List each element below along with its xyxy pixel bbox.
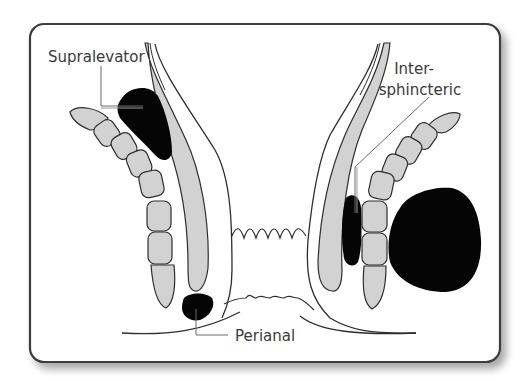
label-supralevator: Supralevator [48, 48, 145, 66]
intersphincteric-abscess [342, 195, 362, 265]
label-intersphincteric-line2: sphincteric [379, 81, 461, 99]
label-perianal: Perianal [235, 327, 295, 345]
abscess-diagram: Supralevator Inter- sphincteric Perianal [0, 0, 528, 382]
label-intersphincteric-line1: Inter- [394, 60, 434, 78]
